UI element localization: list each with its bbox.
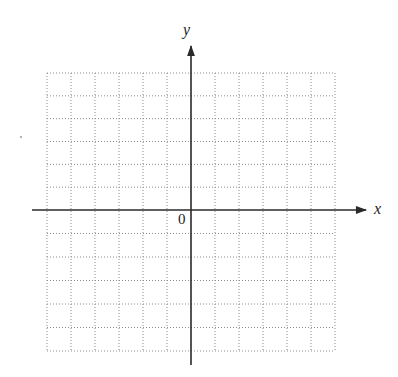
scan-speck (20, 136, 22, 138)
origin-label: 0 (178, 212, 186, 227)
coordinate-plane-graphic (0, 0, 398, 377)
x-axis-label: x (374, 201, 381, 217)
y-axis-label: y (183, 22, 190, 38)
coordinate-plane: y x 0 (0, 0, 398, 377)
